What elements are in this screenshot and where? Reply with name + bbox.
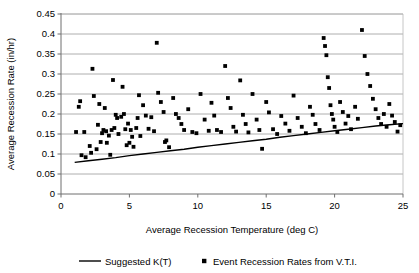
data-point xyxy=(78,99,82,103)
legend-label-event-recession-rates: Event Recession Rates from V.T.I. xyxy=(213,256,357,267)
data-point xyxy=(174,112,178,116)
data-point xyxy=(335,130,339,134)
data-point xyxy=(130,135,134,139)
data-point xyxy=(338,100,342,104)
data-point xyxy=(304,131,308,135)
data-point xyxy=(360,28,364,32)
data-point xyxy=(353,105,357,109)
data-point xyxy=(231,125,235,129)
data-point xyxy=(212,114,216,118)
data-point xyxy=(115,116,119,120)
data-point xyxy=(82,130,86,134)
data-point xyxy=(311,113,315,117)
data-point xyxy=(147,127,151,131)
data-point xyxy=(91,67,95,71)
data-point xyxy=(104,129,108,133)
data-point xyxy=(137,93,141,97)
data-point xyxy=(271,127,275,131)
data-point xyxy=(279,114,283,118)
data-point xyxy=(95,147,99,151)
y-axis-title: Average Recession Rate (in/hr) xyxy=(5,38,16,170)
data-point xyxy=(123,127,127,131)
data-point xyxy=(275,132,279,136)
data-point xyxy=(331,118,335,122)
data-point xyxy=(77,105,81,109)
data-point xyxy=(177,116,181,120)
data-point xyxy=(128,141,132,145)
data-point xyxy=(84,155,88,159)
data-point xyxy=(138,134,142,138)
data-point xyxy=(99,140,103,144)
x-axis-title: Average Recession Temperature (deg C) xyxy=(146,224,318,235)
data-point xyxy=(199,92,203,96)
data-point xyxy=(288,129,292,133)
data-point xyxy=(111,78,115,82)
x-tick-label: 15 xyxy=(261,200,272,211)
x-axis-ticks: 0510152025 xyxy=(58,194,408,211)
data-point xyxy=(195,131,199,135)
data-point xyxy=(333,125,337,129)
data-point xyxy=(210,101,214,105)
data-point xyxy=(156,91,160,95)
legend-label-suggested-kt: Suggested K(T) xyxy=(105,256,172,267)
data-point xyxy=(223,64,227,68)
data-point xyxy=(207,129,211,133)
y-tick-label: 0.2 xyxy=(42,108,55,119)
scatter-plot: 0510152025 00.050.10.150.20.250.30.350.4… xyxy=(0,0,419,273)
data-point xyxy=(326,75,330,79)
data-point xyxy=(323,44,327,48)
data-point xyxy=(107,134,111,138)
data-point xyxy=(132,145,136,149)
y-tick-label: 0.35 xyxy=(37,48,56,59)
data-point xyxy=(296,116,300,120)
data-point xyxy=(390,114,394,118)
data-point xyxy=(190,130,194,134)
data-point xyxy=(234,130,238,134)
y-tick-label: 0 xyxy=(50,188,55,199)
data-point xyxy=(329,103,333,107)
y-tick-label: 0.4 xyxy=(42,28,55,39)
data-point xyxy=(155,41,159,45)
data-point xyxy=(398,123,402,127)
data-point xyxy=(126,122,130,126)
data-point xyxy=(255,118,259,122)
data-point xyxy=(105,141,109,145)
data-point xyxy=(251,92,255,96)
data-point xyxy=(341,110,345,114)
data-point xyxy=(267,111,271,115)
x-tick-label: 10 xyxy=(193,200,204,211)
data-point xyxy=(179,122,183,126)
data-point xyxy=(182,128,186,132)
data-point xyxy=(121,85,125,89)
data-point xyxy=(344,122,348,126)
data-point xyxy=(141,103,145,107)
data-point xyxy=(330,112,334,116)
data-point xyxy=(171,96,175,100)
data-point xyxy=(117,132,121,136)
data-point xyxy=(238,79,242,83)
data-point xyxy=(349,127,353,131)
data-point xyxy=(136,116,140,120)
data-point xyxy=(97,102,101,106)
data-point xyxy=(260,147,264,151)
y-tick-label: 0.25 xyxy=(37,88,56,99)
data-point xyxy=(376,116,380,120)
y-tick-label: 0.3 xyxy=(42,68,55,79)
data-point xyxy=(324,53,328,57)
data-point xyxy=(366,72,370,76)
y-tick-label: 0.15 xyxy=(37,128,56,139)
data-point xyxy=(387,102,391,106)
data-point xyxy=(292,94,296,98)
data-point xyxy=(396,130,400,134)
data-point xyxy=(112,126,116,130)
data-point xyxy=(379,122,383,126)
data-point xyxy=(382,112,386,116)
data-point xyxy=(247,131,251,135)
data-point xyxy=(327,86,331,90)
data-point xyxy=(167,145,171,149)
data-point xyxy=(314,122,318,126)
data-point xyxy=(74,130,78,134)
y-tick-label: 0.05 xyxy=(37,168,56,179)
data-point xyxy=(283,122,287,126)
data-point xyxy=(80,153,84,157)
